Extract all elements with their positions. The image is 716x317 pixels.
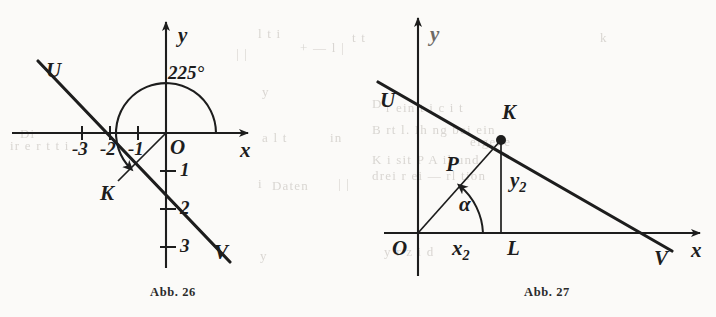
y-tick-label-1: 1 — [180, 159, 190, 181]
label-P-abb27: P — [446, 152, 459, 177]
label-x-axis-abb26: x — [240, 138, 251, 163]
label-y2-base: y — [510, 168, 519, 192]
label-V-abb26: V — [214, 240, 228, 265]
label-x-axis-abb27: x — [691, 238, 702, 263]
x-tick-label--1: -1 — [128, 138, 144, 160]
label-y-axis-abb26: y — [178, 23, 187, 48]
caption-abb-27: Abb. 27 — [368, 285, 716, 300]
label-U-abb26: U — [46, 58, 61, 83]
line-UV-abb27 — [378, 82, 672, 251]
label-L-abb27: L — [507, 236, 520, 261]
label-K-abb26: K — [100, 181, 114, 206]
x-tick-label--3: -3 — [72, 138, 88, 160]
label-angle-225-abb26: 225° — [168, 62, 204, 84]
y-tick-label-3: 3 — [180, 235, 190, 257]
caption-abb-26: Abb. 26 — [0, 285, 352, 300]
segment-OK-abb27 — [418, 140, 501, 233]
figure-abb-27: U V K y x O P α L x2 y2 Abb. 27 — [358, 0, 716, 317]
label-y-axis-abb27: y — [430, 22, 439, 47]
label-K-abb27: K — [502, 100, 516, 125]
label-x2-abb27: x2 — [452, 236, 470, 264]
label-V-abb27: V — [654, 246, 668, 271]
point-K-abb27 — [496, 135, 506, 145]
label-alpha-abb27: α — [459, 192, 471, 217]
label-y2-subscript: 2 — [519, 179, 526, 195]
scanned-page: l t i+ — l || |t tya l tiniDaten| |yDiir… — [0, 0, 716, 317]
label-x2-subscript: 2 — [463, 247, 470, 263]
label-U-abb27: U — [380, 88, 395, 113]
line-UV-abb26 — [38, 61, 230, 262]
figure-abb-26: U V K y x O 225° -3 -2 -1 1 2 3 Abb. 26 — [0, 0, 358, 317]
label-x2-base: x — [452, 236, 463, 260]
label-origin-abb27: O — [392, 236, 407, 261]
x-tick-label--2: -2 — [100, 138, 116, 160]
label-origin-abb26: O — [170, 135, 185, 160]
label-y2-abb27: y2 — [510, 168, 526, 196]
y-tick-label-2: 2 — [180, 197, 190, 219]
